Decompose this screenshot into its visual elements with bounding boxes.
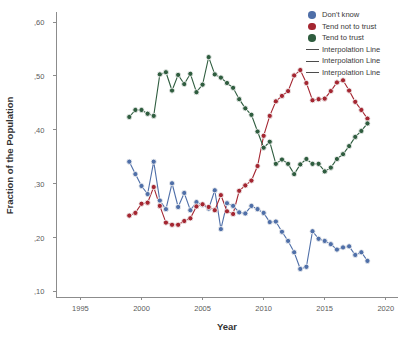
data-point-tend-to-trust: [249, 112, 254, 117]
data-point-tend-not-to-trust: [334, 80, 339, 85]
data-point-tend-to-trust: [169, 88, 174, 93]
data-point-don-t-know: [212, 188, 217, 193]
data-point-tend-not-to-trust: [322, 96, 327, 101]
data-point-tend-to-trust: [255, 129, 260, 134]
data-point-tend-not-to-trust: [359, 107, 364, 112]
legend-swatch: [303, 61, 321, 62]
data-point-tend-to-trust: [237, 97, 242, 102]
series-line-don-t-know: [129, 162, 367, 269]
data-point-tend-to-trust: [316, 161, 321, 166]
data-point-tend-not-to-trust: [231, 211, 236, 216]
legend-swatch: [303, 49, 321, 50]
x-tick-label: 2010: [255, 304, 272, 313]
data-point-don-t-know: [243, 211, 248, 216]
data-point-tend-to-trust: [359, 128, 364, 133]
data-point-tend-to-trust: [304, 156, 309, 161]
data-point-tend-to-trust: [212, 72, 217, 77]
legend-item: Tend not to trust: [303, 21, 415, 33]
x-axis-title: Year: [217, 321, 237, 332]
data-point-don-t-know: [169, 181, 174, 186]
data-point-tend-to-trust: [261, 145, 266, 150]
data-point-tend-to-trust: [145, 111, 150, 116]
data-point-don-t-know: [267, 219, 272, 224]
data-point-tend-to-trust: [127, 114, 132, 119]
data-point-don-t-know: [285, 238, 290, 243]
data-point-don-t-know: [310, 229, 315, 234]
data-point-tend-not-to-trust: [267, 113, 272, 118]
data-point-tend-not-to-trust: [249, 178, 254, 183]
data-point-tend-not-to-trust: [176, 222, 181, 227]
data-point-tend-to-trust: [267, 139, 272, 144]
legend-marker-icon: [308, 11, 316, 19]
data-point-tend-not-to-trust: [304, 80, 309, 85]
data-point-don-t-know: [334, 247, 339, 252]
data-point-tend-not-to-trust: [273, 99, 278, 104]
data-point-don-t-know: [188, 208, 193, 213]
legend-item-label: Tend not to trust: [321, 23, 376, 31]
legend-item-label: Don't know: [321, 11, 359, 19]
y-tick-label: ,40: [34, 126, 44, 135]
data-point-tend-to-trust: [224, 80, 229, 85]
data-point-tend-to-trust: [163, 70, 168, 75]
data-point-tend-not-to-trust: [243, 183, 248, 188]
data-point-tend-not-to-trust: [353, 99, 358, 104]
y-tick-label: ,20: [34, 234, 44, 243]
y-axis-title: Fraction of the Population: [4, 96, 15, 214]
data-point-tend-not-to-trust: [261, 133, 266, 138]
legend-swatch: [303, 11, 321, 19]
data-point-tend-not-to-trust: [206, 204, 211, 209]
data-point-tend-not-to-trust: [292, 73, 297, 78]
legend-item: Tend to trust: [303, 32, 415, 44]
data-point-tend-not-to-trust: [316, 97, 321, 102]
data-point-don-t-know: [163, 207, 168, 212]
data-point-don-t-know: [353, 252, 358, 257]
data-point-tend-to-trust: [279, 157, 284, 162]
data-point-tend-not-to-trust: [212, 208, 217, 213]
data-point-don-t-know: [145, 191, 150, 196]
data-point-don-t-know: [237, 210, 242, 215]
data-point-don-t-know: [261, 210, 266, 215]
x-tick-label: 2000: [133, 304, 150, 313]
data-point-tend-to-trust: [322, 169, 327, 174]
data-point-don-t-know: [279, 229, 284, 234]
data-point-don-t-know: [182, 190, 187, 195]
legend-item: Interpolation Line: [303, 44, 415, 56]
data-point-tend-to-trust: [273, 161, 278, 166]
legend-item: Interpolation Line: [303, 55, 415, 67]
y-tick-label: ,50: [34, 72, 44, 81]
data-point-tend-to-trust: [310, 161, 315, 166]
legend-item: Don't know: [303, 9, 415, 21]
data-point-tend-not-to-trust: [145, 200, 150, 205]
data-point-tend-to-trust: [347, 143, 352, 148]
data-point-don-t-know: [328, 242, 333, 247]
data-point-tend-not-to-trust: [310, 98, 315, 103]
data-point-don-t-know: [133, 172, 138, 177]
data-point-tend-to-trust: [231, 85, 236, 90]
x-tick-label: 2020: [377, 304, 394, 313]
data-point-tend-to-trust: [176, 72, 181, 77]
x-tick-label: 2015: [316, 304, 333, 313]
data-point-don-t-know: [218, 226, 223, 231]
data-point-tend-not-to-trust: [127, 213, 132, 218]
data-point-don-t-know: [298, 266, 303, 271]
data-point-don-t-know: [231, 203, 236, 208]
data-point-don-t-know: [359, 250, 364, 255]
legend-line-icon: [306, 72, 319, 73]
data-point-tend-not-to-trust: [347, 88, 352, 93]
y-tick-label: ,10: [34, 287, 44, 296]
x-tick-label: 1995: [72, 304, 89, 313]
data-point-tend-to-trust: [194, 90, 199, 95]
data-point-tend-to-trust: [365, 121, 370, 126]
data-point-tend-to-trust: [243, 106, 248, 111]
data-point-tend-not-to-trust: [328, 88, 333, 93]
data-point-tend-not-to-trust: [237, 188, 242, 193]
data-point-tend-to-trust: [206, 55, 211, 60]
data-point-tend-not-to-trust: [255, 163, 260, 168]
data-point-tend-not-to-trust: [194, 204, 199, 209]
data-point-tend-not-to-trust: [151, 184, 156, 189]
legend-swatch: [303, 72, 321, 73]
data-point-tend-to-trust: [157, 72, 162, 77]
data-point-don-t-know: [224, 201, 229, 206]
data-point-tend-not-to-trust: [218, 193, 223, 198]
legend-item-label: Tend to trust: [321, 34, 364, 42]
